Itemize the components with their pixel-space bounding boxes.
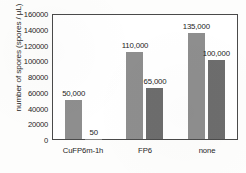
bar-value-label: 50 [89, 128, 97, 137]
bar [146, 88, 163, 139]
bar-column: 50 [85, 15, 102, 139]
bar [126, 52, 143, 139]
y-axis-tick-label: 60000 [28, 88, 48, 97]
bar-group: 50,00050 [53, 15, 114, 139]
bar-group: 110,00065,000 [114, 15, 175, 139]
bar-column: 50,000 [65, 15, 82, 139]
x-axis-category-label: CuFP6m-1h [52, 146, 114, 155]
bar [85, 139, 102, 140]
y-axis-tick-label: 40000 [28, 104, 48, 113]
bar-groups: 50,00050110,00065,000135,000100,000 [53, 15, 237, 139]
bar-value-label: 110,000 [122, 41, 149, 50]
bar-value-label: 65,000 [144, 77, 167, 86]
x-axis-category-label: FP6 [114, 146, 176, 155]
bar-column: 110,000 [126, 15, 143, 139]
y-axis-tick-label: 140000 [24, 25, 48, 34]
bar-value-label: 135,000 [183, 22, 210, 31]
x-axis-category-labels: CuFP6m-1hFP6none [52, 146, 238, 155]
x-axis-category-label: none [176, 146, 238, 155]
y-axis-tick-label: 120000 [24, 41, 48, 50]
y-axis-tick-label: 160000 [24, 10, 48, 19]
bar-column: 135,000 [188, 15, 205, 139]
y-axis-tick-label: 20000 [28, 120, 48, 129]
bar [65, 100, 82, 139]
bar-column: 100,000 [208, 15, 225, 139]
y-axis-tick-labels: 1600001400001200001000008000060000400002… [8, 14, 48, 140]
plot-area: 50,00050110,00065,000135,000100,000 [52, 14, 238, 140]
y-axis-tick-label: 80000 [28, 73, 48, 82]
bar-column: 65,000 [146, 15, 163, 139]
chart-figure: number of spores (spores / µL) 160000140… [0, 0, 246, 173]
bar-value-label: 50,000 [62, 89, 85, 98]
y-axis-tick-label: 100000 [24, 57, 48, 66]
bar-group: 135,000100,000 [176, 15, 237, 139]
bar [208, 60, 225, 139]
y-axis-tick-label: 0 [44, 136, 48, 145]
bar-value-label: 100,000 [203, 49, 230, 58]
